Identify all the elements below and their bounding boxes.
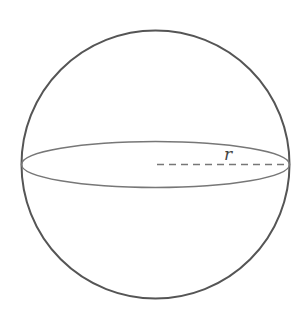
equator-ellipse xyxy=(22,142,290,188)
sphere-outline xyxy=(22,31,290,299)
sphere-diagram: r xyxy=(0,0,308,321)
radius-label: r xyxy=(224,144,233,164)
